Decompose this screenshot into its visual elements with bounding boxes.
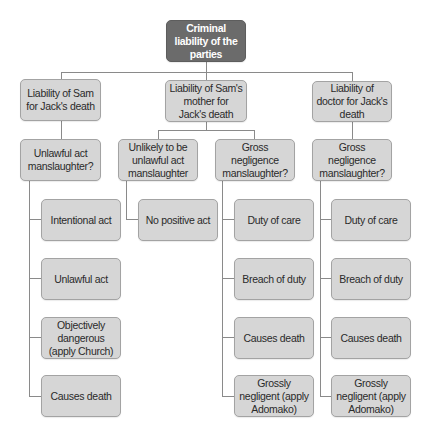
connector [206,122,207,130]
offence-mother-unlikely-unlawful-act: Unlikely to be unlawful act manslaughter [118,139,198,181]
connector [29,181,30,396]
element-node: Causes death [41,375,121,417]
connector [126,219,138,220]
connector [158,130,255,131]
element-node: Grossly negligent (apply Adomako) [331,375,411,417]
element-node: Causes death [331,317,411,359]
connector [222,396,234,397]
connector [320,181,321,396]
offence-mother-gross-negligence: Gross negligence manslaughter? [215,139,295,181]
connector [222,337,234,338]
root-node: Criminal liability of the parties [166,20,246,62]
connector [352,122,353,139]
element-node: Causes death [234,317,314,359]
element-node: Intentional act [41,199,121,241]
connector [29,278,41,279]
element-node: Breach of duty [331,258,411,300]
element-node: Objectively dangerous (apply Church) [41,317,121,359]
connector [61,72,353,73]
connector [29,337,41,338]
connector [222,181,223,396]
element-node: Breach of duty [234,258,314,300]
connector [352,72,353,81]
connector [126,181,127,219]
connector [61,72,62,79]
element-node: Grossly negligent (apply Adomako) [234,375,314,417]
branch-mother-node: Liability of Sam's mother for Jack's dea… [165,80,247,122]
element-node: No positive act [138,199,218,241]
element-node: Duty of care [234,199,314,241]
connector [206,62,207,72]
element-node: Unlawful act [41,258,121,300]
branch-doctor-node: Liability of doctor for Jack's death [312,81,392,122]
connector [254,130,255,139]
offence-doctor-gross-negligence: Gross negligence manslaughter? [312,139,392,181]
connector [222,219,234,220]
offence-sam-unlawful-act: Unlawful act manslaughter? [20,139,101,181]
connector [158,130,159,139]
connector [222,278,234,279]
branch-sam-node: Liability of Sam for Jack's death [20,79,101,121]
element-node: Duty of care [331,199,411,241]
connector [29,396,41,397]
connector [29,219,41,220]
connector [206,72,207,80]
connector [61,121,62,139]
